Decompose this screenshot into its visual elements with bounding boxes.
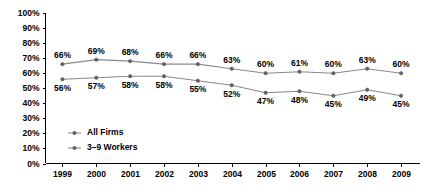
x-tick-label: 2000 xyxy=(87,169,106,179)
data-point-label: 47% xyxy=(257,96,274,106)
legend-item-1: All Firms xyxy=(68,127,124,137)
data-point-marker xyxy=(332,94,335,97)
y-tick-label: 60% xyxy=(22,68,39,78)
data-point-label: 56% xyxy=(54,83,71,93)
y-tick-label: 30% xyxy=(22,113,39,123)
x-tick-label: 2002 xyxy=(155,169,174,179)
data-point-label: 63% xyxy=(223,55,240,65)
data-point-label: 60% xyxy=(257,59,274,69)
data-point-label: 45% xyxy=(325,99,342,109)
data-point-marker xyxy=(61,62,64,65)
legend-marker-dot xyxy=(73,146,76,149)
data-point-label: 63% xyxy=(359,55,376,65)
data-point-marker xyxy=(399,94,402,97)
data-point-label: 55% xyxy=(189,84,206,94)
chart-legend: All Firms3–9 Workers xyxy=(68,127,138,152)
y-axis-tick-labels: 100%90%80%70%60%50%40%30%20%10%0% xyxy=(18,8,40,169)
data-point-marker xyxy=(399,72,402,75)
data-point-marker xyxy=(230,67,233,70)
data-point-label: 49% xyxy=(359,93,376,103)
y-tick-label: 10% xyxy=(22,143,39,153)
data-point-marker xyxy=(95,76,98,79)
data-point-label: 60% xyxy=(325,59,342,69)
x-tick-label: 2005 xyxy=(257,169,276,179)
y-tick-label: 80% xyxy=(22,38,39,48)
y-tick-label: 40% xyxy=(22,98,39,108)
x-tick-label: 2007 xyxy=(324,169,343,179)
data-point-label: 48% xyxy=(291,95,308,105)
data-point-label: 58% xyxy=(156,80,173,90)
x-tick-label: 2009 xyxy=(392,169,411,179)
y-tick-label: 70% xyxy=(22,53,39,63)
data-point-label: 45% xyxy=(393,99,410,109)
x-tick-label: 2003 xyxy=(189,169,208,179)
legend-label: All Firms xyxy=(87,127,124,137)
legend-marker-dot xyxy=(73,131,76,134)
y-tick-label: 20% xyxy=(22,128,39,138)
y-tick-label: 50% xyxy=(22,83,39,93)
chart-svg: 100%90%80%70%60%50%40%30%20%10%0% 199920… xyxy=(0,0,436,192)
data-point-label: 61% xyxy=(291,58,308,68)
legend-item-2: 3–9 Workers xyxy=(68,142,138,152)
data-point-marker xyxy=(230,84,233,87)
data-point-label: 66% xyxy=(156,50,173,60)
x-tick-label: 2006 xyxy=(290,169,309,179)
y-tick-label: 0% xyxy=(27,159,40,169)
data-point-label: 66% xyxy=(189,50,206,60)
x-tick-label: 2004 xyxy=(223,169,242,179)
x-tick-label: 2008 xyxy=(358,169,377,179)
data-point-marker xyxy=(128,75,131,78)
data-point-marker xyxy=(128,59,131,62)
data-point-marker xyxy=(298,90,301,93)
legend-label: 3–9 Workers xyxy=(87,142,138,152)
data-point-label: 57% xyxy=(88,81,105,91)
data-point-marker xyxy=(95,58,98,61)
data-point-label: 58% xyxy=(122,80,139,90)
y-axis: 100%90%80%70%60%50%40%30%20%10%0% xyxy=(18,8,46,169)
data-point-marker xyxy=(264,91,267,94)
data-point-marker xyxy=(61,78,64,81)
y-tick-label: 100% xyxy=(18,8,40,18)
y-tick-label: 90% xyxy=(22,23,39,33)
data-point-marker xyxy=(196,62,199,65)
x-tick-label: 1999 xyxy=(53,169,72,179)
data-point-marker xyxy=(162,75,165,78)
data-point-marker xyxy=(264,72,267,75)
x-axis-tick-labels: 1999200020012002200320042005200620072008… xyxy=(53,169,411,179)
data-point-marker xyxy=(366,88,369,91)
data-point-label: 60% xyxy=(393,59,410,69)
data-point-label: 68% xyxy=(122,47,139,57)
data-point-label: 52% xyxy=(223,89,240,99)
data-point-marker xyxy=(298,70,301,73)
data-point-marker xyxy=(366,67,369,70)
x-tick-label: 2001 xyxy=(121,169,140,179)
data-point-marker xyxy=(196,79,199,82)
data-point-marker xyxy=(332,72,335,75)
line-chart: 100%90%80%70%60%50%40%30%20%10%0% 199920… xyxy=(0,0,436,192)
x-axis: 1999200020012002200320042005200620072008… xyxy=(46,164,421,179)
data-point-marker xyxy=(162,62,165,65)
data-point-label: 69% xyxy=(88,46,105,56)
data-point-label: 66% xyxy=(54,50,71,60)
